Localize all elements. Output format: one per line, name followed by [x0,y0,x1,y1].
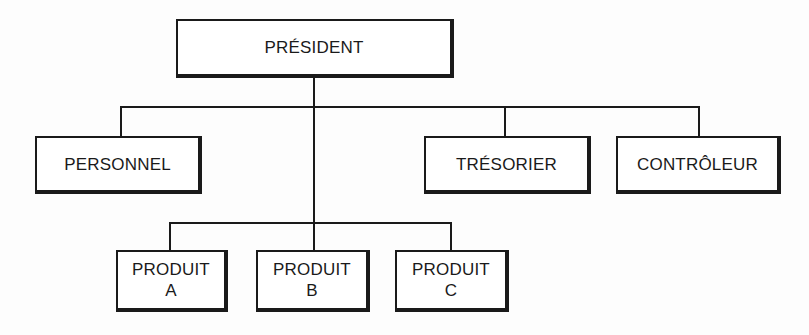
connector-tresorier-drop [504,106,506,136]
produit-c-line1: PRODUIT [412,259,490,280]
tresorier-box: TRÉSORIER [424,136,591,194]
personnel-label: PERSONNEL [64,154,171,175]
controleur-label: CONTRÔLEUR [637,154,758,175]
personnel-box: PERSONNEL [35,136,202,194]
produit-c-box: PRODUIT C [395,250,509,312]
org-chart: PRÉSIDENT PERSONNEL TRÉSORIER CONTRÔLEUR… [0,0,809,335]
connector-produit-c-drop [450,222,452,250]
produit-b-line2: B [306,280,318,301]
connector-products-bar [169,222,452,224]
connector-personnel-drop [120,106,122,136]
produit-b-box: PRODUIT B [256,250,370,312]
connector-produit-a-drop [169,222,171,250]
produit-b-line1: PRODUIT [273,259,351,280]
produit-a-box: PRODUIT A [116,250,228,312]
connector-staff-bar [120,106,700,108]
connector-president-stem [313,77,315,250]
produit-a-line1: PRODUIT [132,259,210,280]
produit-a-line2: A [165,280,177,301]
produit-c-line2: C [445,280,457,301]
tresorier-label: TRÉSORIER [456,154,557,175]
connector-controleur-drop [698,106,700,136]
president-box: PRÉSIDENT [176,19,454,78]
president-label: PRÉSIDENT [264,37,363,58]
controleur-box: CONTRÔLEUR [616,136,781,194]
